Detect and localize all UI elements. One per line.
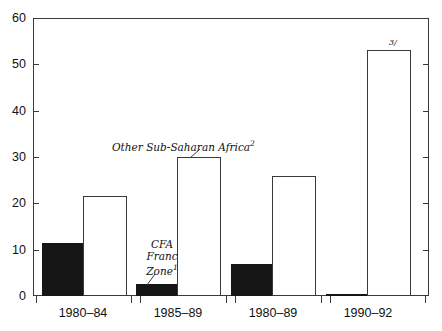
x-axis-tick-mark-1	[131, 296, 132, 303]
bar-other-1980-89	[272, 176, 316, 297]
bar-cfa-1990-92	[326, 294, 367, 296]
y-axis-tick-mark-40	[33, 111, 39, 112]
y-axis-right-tick-50	[423, 64, 429, 65]
footnote-marker-3: 3/	[389, 38, 397, 47]
x-axis-tick-mark-start	[36, 296, 37, 303]
annotation-cfa-franc-zone: CFA Franc Zone1	[140, 239, 184, 277]
y-axis-tick-label-20: 20	[0, 197, 26, 209]
y-axis-tick-label-0: 0	[0, 290, 26, 302]
annotation-other-sub-saharan-africa: Other Sub-Saharan Africa2	[112, 138, 255, 153]
y-axis-right-tick-30	[423, 157, 429, 158]
x-axis-label-1980-84: 1980–84	[39, 306, 127, 320]
y-axis-tick-label-30: 30	[0, 151, 26, 163]
y-axis-tick-mark-20	[33, 203, 39, 204]
y-axis-right-tick-10	[423, 250, 429, 251]
y-axis-right-tick-40	[423, 111, 429, 112]
bar-other-1980-84	[83, 196, 127, 296]
bar-cfa-1980-89	[231, 264, 272, 296]
leader-line-cfa	[144, 274, 160, 286]
annotation-other-label-text: Other Sub-Saharan Africa	[112, 141, 250, 153]
y-axis-tick-mark-10	[33, 250, 39, 251]
x-axis-tick-mark-5	[321, 296, 322, 303]
x-axis-label-1990-92: 1990–92	[324, 306, 412, 320]
x-axis-tick-mark-end	[425, 296, 426, 303]
annotation-cfa-footnote: 1	[173, 263, 178, 272]
x-axis-tick-mark-2	[140, 296, 141, 303]
x-axis-label-1985-89: 1985–89	[134, 306, 222, 320]
annotation-cfa-line2: Franc	[146, 250, 177, 262]
y-axis-right-tick-20	[423, 203, 429, 204]
bar-other-1990-92	[367, 50, 411, 296]
bar-cfa-1985-89	[136, 284, 177, 296]
x-axis-tick-mark-3	[226, 296, 227, 303]
annotation-cfa-line1: CFA	[151, 238, 173, 250]
annotation-other-footnote: 2	[250, 139, 255, 148]
y-axis-tick-label-40: 40	[0, 105, 26, 117]
bar-cfa-1980-84	[42, 243, 83, 296]
y-axis-tick-label-10: 10	[0, 244, 26, 256]
x-axis-tick-mark-4	[235, 296, 236, 303]
x-axis-label-1980-89: 1980–89	[229, 306, 317, 320]
leader-line-other	[185, 149, 205, 159]
y-axis-tick-mark-50	[33, 64, 39, 65]
y-axis-tick-mark-30	[33, 157, 39, 158]
bar-chart: 60 50 40 30 20 10 0 1980–84 1985–89 1980…	[0, 0, 442, 331]
x-axis-tick-mark-6	[330, 296, 331, 303]
y-axis-tick-label-60: 60	[0, 12, 26, 24]
y-axis-tick-label-50: 50	[0, 58, 26, 70]
